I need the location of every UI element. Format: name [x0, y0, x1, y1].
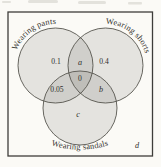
scan-artifact — [28, 0, 58, 3]
region-pants-shorts-value: a — [78, 58, 82, 67]
venn-circles — [18, 28, 143, 145]
region-pants-sandals-value: 0.05 — [50, 85, 63, 94]
region-shorts-only-value: 0.4 — [99, 57, 109, 66]
scan-artifacts — [2, 0, 142, 5]
scanned-figure-page: Wearing pants Wearing shorts Wearing san… — [0, 0, 161, 167]
scan-artifact — [78, 1, 106, 4]
region-outside-value: d — [135, 141, 140, 150]
region-all-three-value: 0 — [78, 74, 82, 83]
region-shorts-sandals-value: b — [99, 85, 103, 94]
region-sandals-only-value: c — [76, 110, 80, 119]
region-pants-only-value: 0.1 — [51, 57, 61, 66]
scan-artifact — [2, 1, 11, 3]
venn-diagram: Wearing pants Wearing shorts Wearing san… — [0, 0, 161, 167]
scan-artifact — [128, 2, 142, 5]
